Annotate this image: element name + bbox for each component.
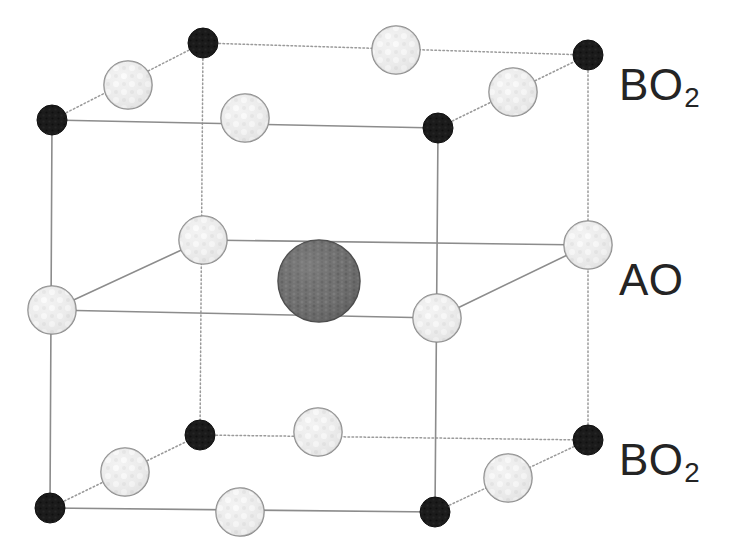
- atom-b: [423, 113, 453, 143]
- atom-o: [413, 294, 461, 342]
- plane-label-bo2-bottom: BO2: [619, 438, 700, 482]
- atom-o: [489, 68, 537, 116]
- atom-o: [564, 221, 612, 269]
- a-site-atom-group: [278, 240, 360, 322]
- atom-o: [221, 94, 269, 142]
- atom-a: [278, 240, 360, 322]
- atom-o: [484, 454, 532, 502]
- atom-o: [101, 448, 149, 496]
- plane-label-bo2-bottom-sub: 2: [684, 457, 700, 488]
- atom-b: [573, 40, 603, 70]
- atom-o: [28, 286, 76, 334]
- atom-b: [185, 420, 215, 450]
- atom-b: [573, 425, 603, 455]
- atom-o: [372, 26, 420, 74]
- plane-label-bo2-top-base: BO: [619, 60, 684, 109]
- plane-label-bo2-bottom-base: BO: [619, 435, 684, 484]
- atom-b: [188, 28, 218, 58]
- perovskite-figure: BO2 AO BO2: [0, 0, 744, 557]
- atom-o: [216, 488, 264, 536]
- atom-b: [420, 497, 450, 527]
- plane-label-ao: AO: [619, 258, 684, 302]
- plane-label-bo2-top: BO2: [619, 63, 700, 107]
- atom-o: [179, 216, 227, 264]
- plane-label-bo2-top-sub: 2: [684, 82, 700, 113]
- atom-o: [104, 61, 152, 109]
- plane-label-ao-base: AO: [619, 255, 684, 304]
- atom-b: [37, 105, 67, 135]
- atom-o: [294, 408, 342, 456]
- atom-b: [35, 493, 65, 523]
